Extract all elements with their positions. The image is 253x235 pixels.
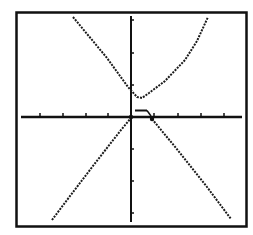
calculator-graph-screen <box>0 0 253 235</box>
origin-dot <box>129 115 133 119</box>
x-intercept-dot <box>150 117 154 121</box>
